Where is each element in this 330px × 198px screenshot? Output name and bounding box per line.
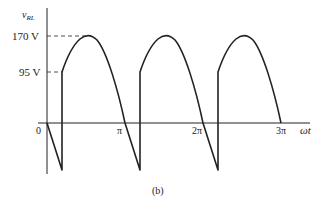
waveform-curve	[47, 36, 281, 170]
x-tick-pi: π	[117, 125, 122, 136]
figure-caption: (b)	[152, 185, 164, 197]
y-tick-170v: 170 V	[12, 30, 39, 42]
y-axis-label: vRL	[22, 9, 35, 22]
x-tick-0: 0	[36, 125, 41, 136]
x-tick-2pi: 2π	[192, 125, 202, 136]
x-tick-3pi: 3π	[276, 125, 286, 136]
x-axis-label: ωt	[300, 124, 312, 136]
rectifier-waveform-chart: vRL 170 V 95 V 0 π 2π 3π ωt (b)	[0, 0, 330, 198]
y-tick-95v: 95 V	[19, 66, 41, 78]
